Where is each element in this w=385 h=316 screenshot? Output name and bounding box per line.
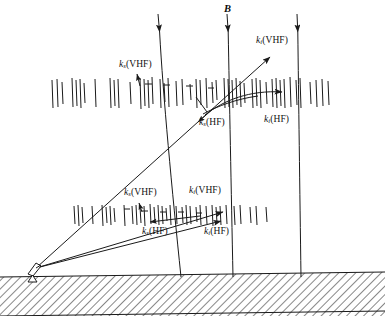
- label-upper-ki-hf: ki(HF): [264, 115, 289, 125]
- label-upper-ks-vhf-paren: (VHF): [126, 59, 152, 69]
- label-lower-ki-hf-paren: (HF): [210, 226, 229, 236]
- upper-hf-secondary-ray: [203, 96, 258, 114]
- label-lower-ks-vhf-paren: (VHF): [131, 187, 157, 197]
- label-upper-ks-hf-paren: (HF): [206, 117, 225, 127]
- magnetic-field-label: B: [224, 3, 231, 14]
- lower-vhf-incident-ray: [36, 212, 223, 268]
- field-line-1: [158, 14, 181, 277]
- magnetic-field-lines: [158, 14, 301, 277]
- label-upper-ki-hf-paren: (HF): [270, 114, 289, 124]
- label-upper-ki-vhf: ki(VHF): [256, 36, 288, 46]
- label-upper-ks-hf: ks(HF): [199, 118, 225, 128]
- label-lower-ks-vhf: ks(VHF): [124, 188, 157, 198]
- field-line-3: [297, 14, 301, 277]
- label-lower-ki-vhf: ki(VHF): [189, 186, 221, 196]
- lower-hf-ray: [36, 221, 221, 268]
- diagram-canvas: [0, 0, 385, 316]
- figure-root: B ks(VHF) ki(VHF) ks(HF) ki(HF) ks(VHF) …: [0, 0, 385, 316]
- upper-irregularity-layer: [52, 77, 329, 109]
- label-upper-ki-vhf-paren: (VHF): [262, 35, 288, 45]
- label-lower-ks-hf: ks(HF): [142, 227, 168, 237]
- upper-vhf-scatter-arrow: [137, 74, 140, 86]
- label-lower-ki-hf: ki(HF): [204, 227, 229, 237]
- hatched-ground: [0, 272, 385, 316]
- field-line-2: [227, 14, 233, 277]
- label-lower-ki-vhf-paren: (VHF): [195, 185, 221, 195]
- label-upper-ks-vhf: ks(VHF): [119, 60, 152, 70]
- label-lower-ks-hf-paren: (HF): [149, 226, 168, 236]
- upper-hf-inbound-tick: [196, 97, 207, 112]
